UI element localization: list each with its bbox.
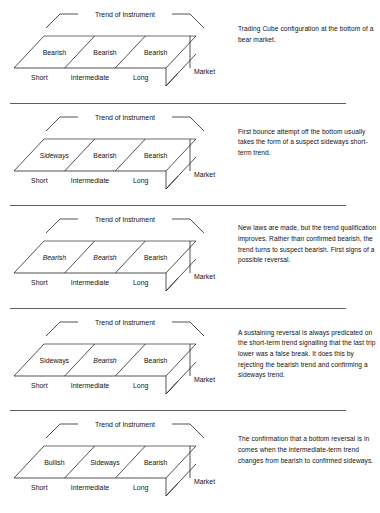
cube-cell-label-1: Bullish <box>44 459 64 466</box>
market-label: Market <box>194 478 215 485</box>
panel-caption: First bounce attempt off the bottom usua… <box>238 127 378 159</box>
trend-bracket-right-tail <box>190 424 204 438</box>
panel-2: SidewaysBearishBearishShortIntermediateL… <box>0 103 380 206</box>
cube-cell-label-3: Bearish <box>144 49 168 56</box>
cube-wrap: BullishSidewaysBearishShortIntermediateL… <box>0 410 240 513</box>
axis-label-long: Long <box>133 382 148 390</box>
axis-label-long: Long <box>133 177 148 185</box>
axis-label-short: Short <box>31 279 48 286</box>
market-flap-diagonal <box>166 483 178 496</box>
cube-cell-label-1: Sideways <box>40 357 70 365</box>
panel-caption: The confirmation that a bottom reversal … <box>238 434 378 466</box>
trend-of-instrument-label: Trend of Instrument <box>95 421 155 428</box>
cube-wrap: SidewaysBearishBearishShortIntermediateL… <box>0 103 240 206</box>
cube-cell-label-2: Sideways <box>90 459 120 467</box>
trend-bracket-right-tail <box>190 14 204 28</box>
cube-cell-label-3: Bearish <box>144 254 168 261</box>
trend-of-instrument-label: Trend of Instrument <box>95 11 155 18</box>
cube-cell-divider <box>65 139 95 171</box>
cube-cell-label-1: Sideways <box>40 152 70 160</box>
panel-4: SidewaysBearishBearishShortIntermediateL… <box>0 308 380 411</box>
axis-label-intermediate: Intermediate <box>71 177 109 184</box>
axis-label-long: Long <box>133 484 148 492</box>
axis-label-short: Short <box>31 74 48 81</box>
axis-label-short: Short <box>31 177 48 184</box>
panel-caption: Trading Cube configuration at the bottom… <box>238 24 378 45</box>
market-label: Market <box>194 376 215 383</box>
axis-label-intermediate: Intermediate <box>71 279 109 286</box>
cube-cell-divider <box>115 344 145 376</box>
cube-cell-divider <box>65 36 95 68</box>
cube-cell-label-2: Bearish <box>93 357 117 364</box>
market-label: Market <box>194 273 215 280</box>
trend-bracket-right-tail <box>190 219 204 233</box>
market-label: Market <box>194 68 215 75</box>
cube-right-edge <box>166 36 196 68</box>
cube-left-edge <box>14 241 44 273</box>
cube-cell-label-3: Bearish <box>144 459 168 466</box>
cube-cell-label-2: Bearish <box>93 254 117 261</box>
panel-3: BearishBearishBearishShortIntermediateLo… <box>0 205 380 308</box>
cube-right-edge <box>166 241 196 273</box>
axis-label-intermediate: Intermediate <box>71 484 109 491</box>
trend-bracket-left-tail <box>46 117 60 131</box>
market-label: Market <box>194 171 215 178</box>
cube-right-edge <box>166 139 196 171</box>
axis-label-intermediate: Intermediate <box>71 382 109 389</box>
cube-cell-label-2: Bearish <box>93 49 117 56</box>
cube-wrap: BearishBearishBearishShortIntermediateLo… <box>0 205 240 308</box>
cube-cell-divider <box>65 344 95 376</box>
axis-label-intermediate: Intermediate <box>71 74 109 81</box>
cube-cell-label-3: Bearish <box>144 357 168 364</box>
cube-right-edge <box>166 344 196 376</box>
cube-cell-divider <box>115 36 145 68</box>
panel-1: BearishBearishBearishShortIntermediateLo… <box>0 0 380 103</box>
axis-label-short: Short <box>31 382 48 389</box>
market-flap-diagonal <box>166 278 178 291</box>
market-flap-diagonal <box>166 176 178 189</box>
axis-label-long: Long <box>133 74 148 82</box>
cube-right-edge <box>166 446 196 478</box>
axis-label-long: Long <box>133 279 148 287</box>
cube-wrap: SidewaysBearishBearishShortIntermediateL… <box>0 308 240 411</box>
cube-cell-divider <box>115 139 145 171</box>
trend-of-instrument-label: Trend of Instrument <box>95 216 155 223</box>
trend-bracket-left-tail <box>46 219 60 233</box>
trend-bracket-left-tail <box>46 14 60 28</box>
cube-left-edge <box>14 36 44 68</box>
cube-cell-label-1: Bearish <box>43 49 67 56</box>
trend-bracket-right-tail <box>190 322 204 336</box>
cube-cell-label-3: Bearish <box>144 152 168 159</box>
trading-cube-diagram: BullishSidewaysBearishShortIntermediateL… <box>0 410 240 513</box>
axis-label-short: Short <box>31 484 48 491</box>
trading-cube-diagram: BearishBearishBearishShortIntermediateLo… <box>0 0 240 103</box>
trend-bracket-left-tail <box>46 322 60 336</box>
trading-cube-diagram: SidewaysBearishBearishShortIntermediateL… <box>0 308 240 411</box>
cube-cell-divider <box>115 241 145 273</box>
trend-bracket-left-tail <box>46 424 60 438</box>
figure-page: BearishBearishBearishShortIntermediateLo… <box>0 0 380 513</box>
market-flap-diagonal <box>166 73 178 86</box>
panel-caption: New laws are made, but the trend qualifi… <box>238 223 378 266</box>
market-flap-diagonal <box>166 381 178 394</box>
trend-of-instrument-label: Trend of Instrument <box>95 113 155 120</box>
cube-cell-divider <box>115 446 145 478</box>
cube-cell-label-1: Bearish <box>43 254 67 261</box>
trend-of-instrument-label: Trend of Instrument <box>95 318 155 325</box>
cube-left-edge <box>14 446 44 478</box>
cube-cell-label-2: Bearish <box>93 152 117 159</box>
cube-wrap: BearishBearishBearishShortIntermediateLo… <box>0 0 240 103</box>
trading-cube-diagram: SidewaysBearishBearishShortIntermediateL… <box>0 103 240 206</box>
panel-5: BullishSidewaysBearishShortIntermediateL… <box>0 410 380 513</box>
trading-cube-diagram: BearishBearishBearishShortIntermediateLo… <box>0 205 240 308</box>
panel-caption: A sustaining reversal is always predicat… <box>238 328 378 381</box>
trend-bracket-right-tail <box>190 117 204 131</box>
cube-cell-divider <box>65 241 95 273</box>
